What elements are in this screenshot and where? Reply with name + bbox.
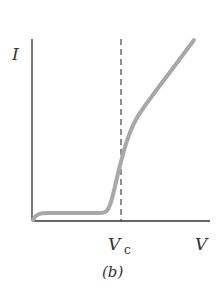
vc-label-subscript: c <box>124 243 131 257</box>
y-axis-label: I <box>11 44 19 64</box>
panel-label: (b) <box>102 263 123 281</box>
x-axis-label: V <box>195 234 209 254</box>
vc-label: V <box>108 234 122 254</box>
iv-chart: I V V c (b) <box>0 0 224 294</box>
iv-curve <box>33 40 194 220</box>
